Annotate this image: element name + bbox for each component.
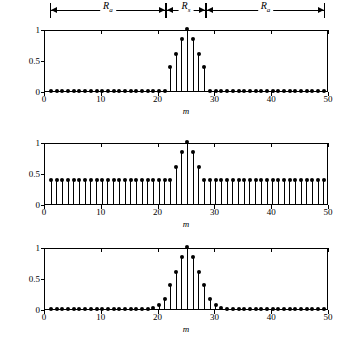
x-axis-tick-top [328,30,329,34]
x-tick-label: 10 [96,94,105,104]
arrowhead-left-icon [167,7,173,13]
annotation-segment: Ra [50,0,166,22]
x-tick-label: 40 [267,94,276,104]
x-axis-tick-top [158,30,159,34]
y-tick-label: 1 [36,243,41,253]
x-tick-label: 20 [153,94,162,104]
arrowhead-right-icon [159,7,165,13]
x-axis-tick-top [158,248,159,252]
y-axis-labels-3: 00.51 [0,248,40,310]
annotation-label: Rs [179,0,194,17]
y-tick-label: 0 [36,200,41,210]
x-axis-tick-top [44,30,45,34]
y-tick-label: 0 [36,87,41,97]
y-tick-label: 0.5 [29,274,40,284]
x-tick-label: 50 [324,94,333,104]
x-axis-tick-top [158,143,159,147]
x-axis-tick-top [44,143,45,147]
y-tick-label: 1 [36,138,41,148]
y-tick-label: 0 [36,305,41,315]
y-tick-label: 0.5 [29,56,40,66]
annotation-label: Ra [100,0,116,17]
x-axis-tick-top [328,248,329,252]
x-tick-label: 0 [42,207,47,217]
x-axis-tick-top [328,143,329,147]
stem-plot-panel-2: 00.51 01020304050 m [0,135,343,240]
annotation-label-subscript: s [188,6,191,14]
x-axis-tick-top [214,30,215,34]
x-tick-label: 0 [42,312,47,322]
stem-plot-panel-3: 00.51 01020304050 m [0,240,343,341]
x-axis-ticks-1 [44,30,328,92]
x-axis-labels-3: 01020304050 [44,312,328,324]
x-axis-tick-top [271,248,272,252]
annotation-label-subscript: a [267,6,271,14]
y-tick-label: 1 [36,25,41,35]
x-axis-tick-top [271,143,272,147]
x-axis-name-2: m [44,219,328,229]
x-axis-tick-top [271,30,272,34]
arrowhead-left-icon [207,7,213,13]
x-tick-label: 20 [153,312,162,322]
stem-plot-panel-1: 00.51 01020304050 m [0,22,343,127]
x-tick-label: 30 [210,207,219,217]
x-tick-label: 50 [324,312,333,322]
annotation-label: Ra [258,0,274,17]
x-tick-label: 10 [96,207,105,217]
x-axis-name-1: m [44,106,328,116]
arrowhead-right-icon [318,7,324,13]
x-axis-labels-1: 01020304050 [44,94,328,106]
x-axis-tick-top [214,248,215,252]
annotation-end-bar-right [324,3,325,18]
x-axis-ticks-2 [44,143,328,205]
x-tick-label: 30 [210,94,219,104]
x-axis-tick-top [214,143,215,147]
annotation-segment: Ra [206,0,325,22]
x-tick-label: 50 [324,207,333,217]
annotation-band: RaRsRa [0,0,343,22]
y-tick-label: 0.5 [29,169,40,179]
x-tick-label: 30 [210,312,219,322]
x-axis-labels-2: 01020304050 [44,207,328,219]
annotation-label-subscript: a [109,6,113,14]
y-axis-labels-2: 00.51 [0,143,40,205]
x-tick-label: 10 [96,312,105,322]
x-axis-tick-top [101,30,102,34]
x-axis-tick-top [101,248,102,252]
annotation-segment: Rs [166,0,206,22]
arrowhead-right-icon [199,7,205,13]
x-axis-ticks-3 [44,248,328,310]
x-axis-tick-top [44,248,45,252]
x-tick-label: 0 [42,94,47,104]
x-tick-label: 20 [153,207,162,217]
arrowhead-left-icon [51,7,57,13]
x-axis-name-3: m [44,324,328,334]
figure-three-stem-plots: RaRsRa 00.51 01020304050 m 00.51 0102030… [0,0,343,341]
y-axis-labels-1: 00.51 [0,30,40,92]
x-tick-label: 40 [267,312,276,322]
x-tick-label: 40 [267,207,276,217]
x-axis-tick-top [101,143,102,147]
